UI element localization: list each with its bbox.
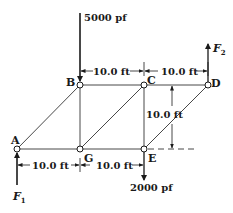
node-G-pin-icon [77,146,83,152]
member-GC [80,85,144,149]
node-label-A: A [10,134,20,147]
node-label-B: B [66,76,75,89]
node-label-C: C [147,74,156,87]
dim-label-height: 10.0 ft [146,109,183,120]
member-AB [17,85,80,149]
truss-diagram: 5000 pf 2000 pf F1 F2 A B C D G E 10.0 f… [0,0,233,213]
node-label-G: G [84,152,93,165]
node-label-E: E [148,152,156,165]
node-E-pin-icon [141,146,147,152]
reaction-label-F2: F2 [212,42,226,57]
node-label-D: D [211,77,221,90]
load-label-B: 5000 pf [84,12,127,23]
reaction-label-F1: F1 [12,190,26,205]
dim-label-top-left: 10.0 ft [93,66,130,77]
node-B-pin-icon [77,82,83,88]
load-label-E: 2000 pf [130,182,173,193]
dim-label-bottom-left: 10.0 ft [32,160,69,171]
dim-label-top-right: 10.0 ft [161,66,198,77]
dim-label-bottom-right: 10.0 ft [96,160,133,171]
